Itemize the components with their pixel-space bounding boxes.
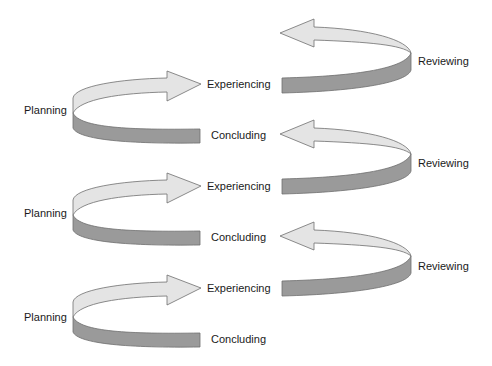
plan-arrow-1	[73, 71, 201, 143]
concluding-label: Concluding	[211, 333, 266, 346]
review-arrow-2	[280, 120, 411, 194]
planning-label: Planning	[24, 311, 67, 324]
experiencing-label: Experiencing	[207, 78, 271, 91]
reviewing-label: Reviewing	[418, 260, 469, 273]
planning-label: Planning	[24, 207, 67, 220]
review-arrow-3	[280, 222, 411, 296]
reviewing-label: Reviewing	[418, 157, 469, 170]
plan-arrow-3	[73, 275, 201, 347]
plan-arrow-2	[73, 173, 201, 245]
review-arrow-1	[280, 19, 411, 93]
planning-label: Planning	[24, 104, 67, 117]
spiral-cycle-diagram: Planning Experiencing Reviewing Concludi…	[0, 0, 492, 366]
reviewing-label: Reviewing	[418, 55, 469, 68]
experiencing-label: Experiencing	[207, 180, 271, 193]
concluding-label: Concluding	[211, 231, 266, 244]
concluding-label: Concluding	[211, 129, 266, 142]
experiencing-label: Experiencing	[207, 282, 271, 295]
